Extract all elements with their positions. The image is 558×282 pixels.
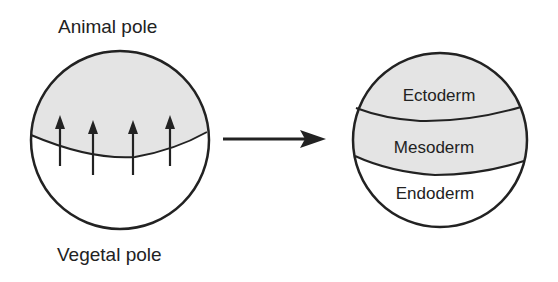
mesoderm-label: Mesoderm [394,138,474,158]
vegetal-pole-label: Vegetal pole [57,244,162,266]
ectoderm-label: Ectoderm [403,86,476,106]
endoderm-label: Endoderm [396,184,474,204]
animal-pole-label: Animal pole [58,16,157,38]
germ-layer-diagram [0,0,558,282]
arrow-right-icon [223,130,326,148]
